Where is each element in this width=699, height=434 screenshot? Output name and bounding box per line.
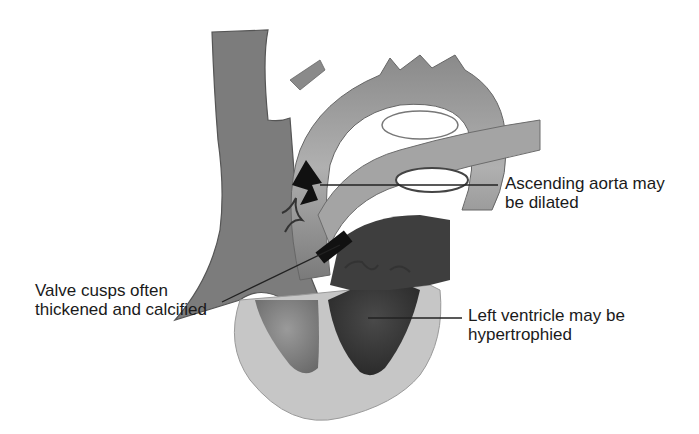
annotation-left-ventricle: Left ventricle may be hypertrophied: [468, 306, 625, 344]
left-atrium: [330, 215, 450, 290]
annotation-line: hypertrophied: [468, 325, 625, 344]
branch-vessel: [290, 60, 325, 90]
annotation-valve-cusps: Valve cusps often thickened and calcifie…: [35, 281, 207, 319]
annotation-line: Ascending aorta may: [505, 174, 665, 193]
annotation-line: be dilated: [505, 193, 665, 212]
annotation-line: Left ventricle may be: [468, 306, 625, 325]
annotation-ascending-aorta: Ascending aorta may be dilated: [505, 174, 665, 212]
annotation-line: Valve cusps often: [35, 281, 207, 300]
heart-diagram: [0, 0, 699, 434]
annotation-line: thickened and calcified: [35, 300, 207, 319]
